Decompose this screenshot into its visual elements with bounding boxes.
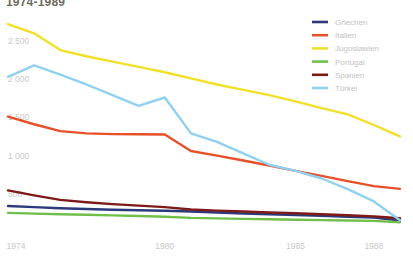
legend-item-portugal[interactable]: Portugal xyxy=(312,58,365,67)
legend-label: Portugal xyxy=(335,58,365,67)
chart-container: 1974-1989 5001 0001 5002 0002 500 197419… xyxy=(0,0,413,264)
x-axis-tick-labels: 1974198019851988 xyxy=(7,241,384,251)
legend-label: Türkei xyxy=(335,84,357,93)
legend-item-griechen[interactable]: Griechen xyxy=(312,18,367,27)
legend-item-spanien[interactable]: Spanien xyxy=(312,71,364,80)
legend-label: Griechen xyxy=(335,18,367,27)
x-tick-label: 1985 xyxy=(286,241,305,251)
legend-label: Spanien xyxy=(335,71,364,80)
series-line-jugoslawien xyxy=(8,24,400,136)
x-tick-label: 1980 xyxy=(155,241,174,251)
x-tick-label: 1974 xyxy=(7,241,26,251)
legend-item-türkei[interactable]: Türkei xyxy=(312,84,357,93)
y-tick-label: 1 000 xyxy=(8,151,30,161)
legend-item-italien[interactable]: Italien xyxy=(312,31,356,40)
chart-legend: GriechenItalienJugoslawienPortugalSpanie… xyxy=(312,18,379,93)
series-lines xyxy=(8,24,400,222)
legend-item-jugoslawien[interactable]: Jugoslawien xyxy=(312,44,379,53)
x-tick-label: 1988 xyxy=(364,241,383,251)
line-chart-plot: 5001 0001 5002 0002 500 1974198019851988… xyxy=(0,0,413,264)
legend-label: Jugoslawien xyxy=(335,44,379,53)
legend-label: Italien xyxy=(335,31,356,40)
series-line-italien xyxy=(8,117,400,189)
y-tick-label: 2 500 xyxy=(8,36,30,46)
